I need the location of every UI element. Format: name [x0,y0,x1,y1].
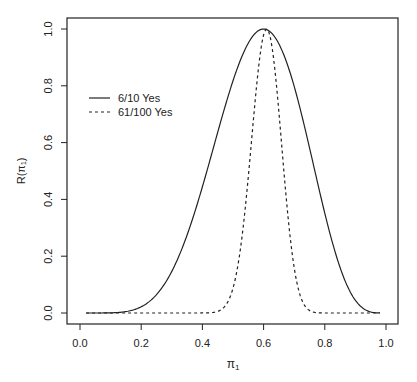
x-tick-label: 0.8 [317,337,332,349]
x-tick-label: 1.0 [378,337,393,349]
x-axis-title: π1 [227,357,240,372]
x-tick-label: 0.6 [256,337,271,349]
x-tick-label: 0.0 [72,337,87,349]
y-tick-label: 0.0 [42,305,54,320]
x-axis: 0.00.20.40.60.81.0 [72,324,393,349]
likelihood-chart: 0.00.20.40.60.81.0 0.00.20.40.60.81.0 π1… [0,0,417,382]
y-tick-label: 0.4 [42,192,54,207]
y-tick-label: 0.8 [42,78,54,93]
x-tick-label: 0.4 [195,337,210,349]
legend-label-solid: 6/10 Yes [118,92,161,104]
y-axis-title: R(π₁) [15,158,27,185]
series-6-of-10-curve [86,29,380,313]
series-61-of-100-curve [86,29,380,313]
y-axis: 0.00.20.40.60.81.0 [42,21,67,320]
legend: 6/10 Yes 61/100 Yes [89,92,173,118]
y-tick-label: 0.2 [42,249,54,264]
plot-area [86,29,380,313]
plot-frame [67,18,398,324]
x-tick-label: 0.2 [134,337,149,349]
y-tick-label: 0.6 [42,135,54,150]
y-tick-label: 1.0 [42,21,54,36]
legend-label-dashed: 61/100 Yes [118,106,173,118]
